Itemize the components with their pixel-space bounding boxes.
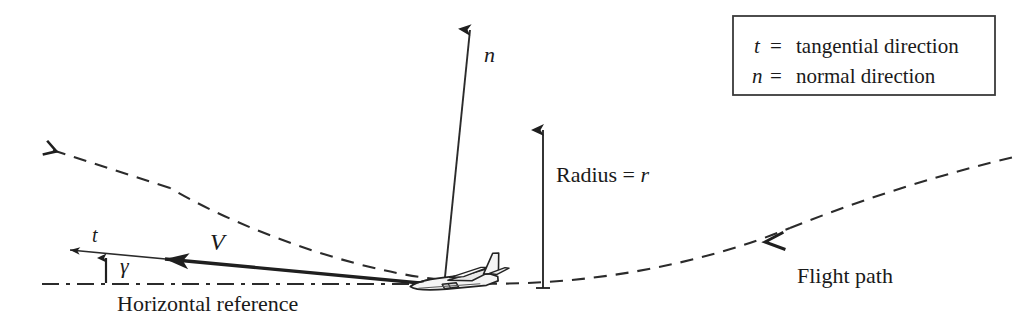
horizontal-reference-label: Horizontal reference [117, 291, 298, 316]
legend-description-t: tangential direction [796, 34, 959, 58]
flight-direction-arrow-icon [765, 233, 784, 249]
flight-path-diagram: n t V γ Radius = r Horizontal reference … [0, 0, 1027, 335]
aircraft-icon [408, 252, 510, 292]
diagram-canvas: n t V γ Radius = r Horizontal reference … [0, 0, 1027, 335]
flight-path-curve-right-outer [790, 157, 1014, 228]
legend-equals-n: = [770, 64, 782, 88]
flight-path-curve-right [462, 228, 790, 284]
radius-label: Radius = r [556, 162, 650, 187]
legend-symbol-n: n [752, 64, 763, 88]
legend-equals-t: = [770, 34, 782, 58]
velocity-vector-label: V [210, 229, 227, 255]
normal-vector-label: n [484, 42, 495, 67]
flight-path-curve-left-outer [46, 148, 170, 188]
tangential-vector-label: t [92, 224, 98, 246]
flight-path-label: Flight path [797, 263, 893, 288]
velocity-vector-arrow [165, 259, 452, 286]
legend-description-n: normal direction [796, 64, 936, 88]
normal-vector-arrow [445, 30, 470, 277]
flight-path-angle-label: γ [120, 253, 130, 278]
